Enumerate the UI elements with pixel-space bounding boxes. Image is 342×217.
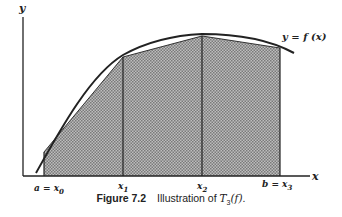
trapezoid-2 bbox=[123, 36, 202, 176]
caption-prefix: Illustration of bbox=[157, 192, 219, 204]
curve-label: y = f (x) bbox=[281, 31, 327, 42]
y-axis-label: y bbox=[18, 2, 27, 15]
x-axis-label: x bbox=[311, 170, 319, 183]
figure-caption-text: Illustration of T3(f). bbox=[157, 192, 245, 204]
trapezoid-3 bbox=[202, 36, 280, 176]
caption-suffix: . bbox=[243, 192, 246, 204]
trapezoid-diagram: y x y = f (x) a = x0 x1 x2 b = x3 bbox=[0, 0, 342, 217]
caption-math-arg: (f) bbox=[230, 192, 242, 204]
caption-math: T bbox=[220, 192, 227, 204]
tick-x3: b = x3 bbox=[262, 179, 292, 192]
trapezoid-1 bbox=[44, 57, 123, 176]
shaded-trapezoids bbox=[44, 36, 280, 176]
figure-caption: Figure 7.2 Illustration of T3(f). bbox=[0, 192, 342, 206]
figure-number: Figure 7.2 bbox=[97, 192, 147, 204]
